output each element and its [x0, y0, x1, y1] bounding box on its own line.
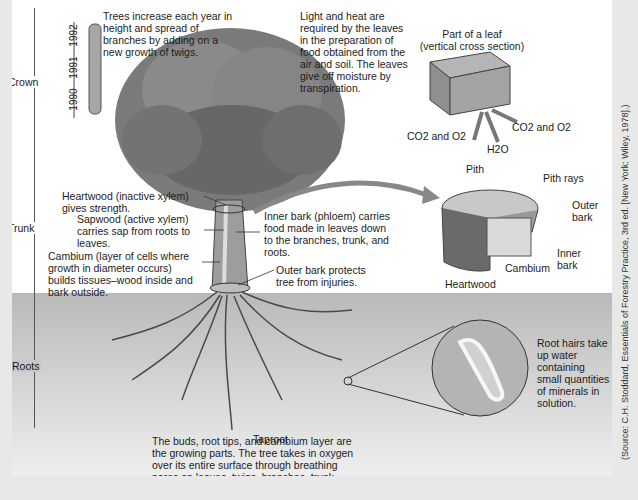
- inner-bark-label: Inner bark: [557, 247, 597, 271]
- pith-label: Pith: [466, 163, 484, 175]
- outer-bark-note: Outer bark protects tree from injuries.: [276, 264, 386, 288]
- crown-growth-note: Trees increase each year in height and s…: [103, 10, 233, 58]
- gas-in-label: CO2 and O2: [407, 130, 466, 142]
- gas-out-label: CO2 and O2: [512, 121, 571, 133]
- inner-bark-note: Inner bark (phloem) carries food made in…: [264, 210, 394, 258]
- pith-rays-label: Pith rays: [543, 172, 584, 184]
- twig-year-1992: 1992: [68, 24, 79, 46]
- outer-bark-label: Outer bark: [572, 199, 612, 223]
- roots-label: Roots: [12, 360, 41, 372]
- tree-diagram: Crown Trunk Roots 1992 1991 1990 Trees i…: [0, 0, 638, 500]
- sapwood-note: Sapwood (active xylem) carries sap from …: [77, 213, 192, 249]
- heartwood-label: Heartwood: [445, 278, 496, 290]
- leaf-subtitle: (vertical cross section): [402, 40, 542, 52]
- root-hairs-note: Root hairs take up water containing smal…: [537, 337, 612, 409]
- trunk-label: Trunk: [12, 222, 36, 234]
- twig-year-1991: 1991: [68, 56, 79, 78]
- water-label: H2O: [487, 143, 509, 155]
- diagram-panel: Crown Trunk Roots 1992 1991 1990 Trees i…: [12, 0, 612, 476]
- cambium-note: Cambium (layer of cells where growth in …: [48, 250, 198, 298]
- growing-parts-note: The buds, root tips, and cambium layer a…: [152, 435, 357, 476]
- trunk-cross-section: [442, 190, 538, 271]
- leaves-note: Light and heat are required by the leave…: [300, 10, 412, 94]
- roots: [112, 292, 352, 430]
- leaf-title: Part of a leaf: [412, 28, 532, 40]
- leaf-cross-section: [430, 52, 517, 142]
- heartwood-note: Heartwood (inactive xylem) gives strengt…: [62, 190, 202, 214]
- source-credit: (Source: C.H. Stoddard, Essentials of Fo…: [620, 60, 634, 460]
- twig-year-1990: 1990: [68, 88, 79, 110]
- cambium-label: Cambium: [505, 262, 550, 274]
- crown-label: Crown: [12, 76, 40, 88]
